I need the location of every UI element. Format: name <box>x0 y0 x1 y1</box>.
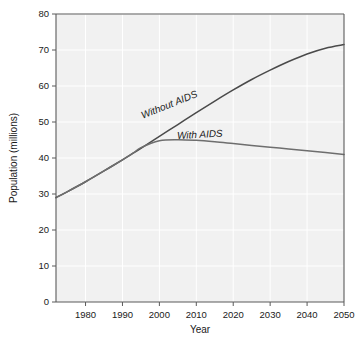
x-tick-label: 2040 <box>297 309 318 320</box>
y-tick-label: 80 <box>38 8 49 19</box>
y-tick-label: 30 <box>38 188 49 199</box>
x-tick-label: 1990 <box>112 309 133 320</box>
x-tick-label: 2030 <box>260 309 281 320</box>
x-tick-label: 2000 <box>149 309 170 320</box>
x-tick-label: 2010 <box>186 309 207 320</box>
y-tick-label: 10 <box>38 260 49 271</box>
chart-canvas: 01020304050607080 1980199020002010202020… <box>0 0 357 346</box>
x-tick-label: 2050 <box>333 309 354 320</box>
x-tick-label: 1980 <box>75 309 96 320</box>
y-tick-label: 50 <box>38 116 49 127</box>
y-tick-label: 60 <box>38 80 49 91</box>
y-tick-label: 0 <box>44 296 49 307</box>
population-projection-chart: 01020304050607080 1980199020002010202020… <box>0 0 357 346</box>
y-tick-label: 70 <box>38 44 49 55</box>
y-tick-label: 20 <box>38 224 49 235</box>
x-tick-label: 2020 <box>223 309 244 320</box>
y-axis-title: Population (millions) <box>8 113 19 203</box>
y-tick-label: 40 <box>38 152 49 163</box>
x-axis-title: Year <box>190 324 211 335</box>
